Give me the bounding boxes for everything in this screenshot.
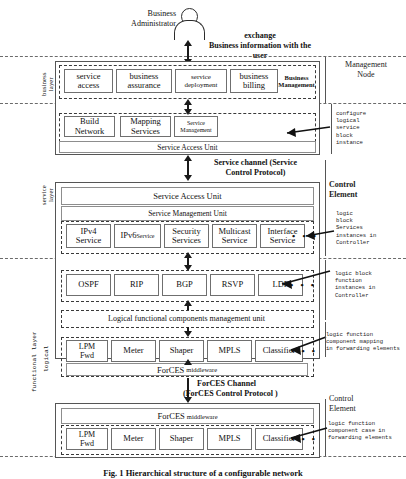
- pointer-arrow-fe-lfc: [0, 0, 406, 479]
- figure-caption: Fig. 1 Hierarchical structure of a confi…: [0, 468, 406, 478]
- figure-canvas: Business Administrator exchange Business…: [0, 0, 406, 479]
